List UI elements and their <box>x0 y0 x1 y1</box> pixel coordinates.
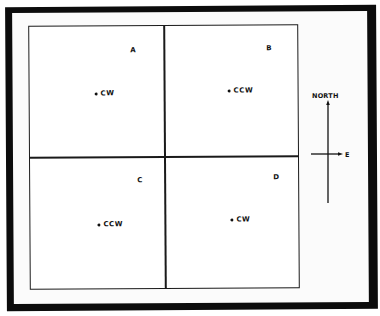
quadrant-grid: A CW B CCW C CCW D CW <box>28 24 300 290</box>
quadrant-a-point: CW <box>95 89 115 97</box>
quadrant-d-point: CW <box>230 215 250 223</box>
quadrant-a-rotation: CW <box>101 89 115 97</box>
quadrant-b-point: CCW <box>228 86 254 94</box>
quadrant-d-label: D <box>273 173 279 181</box>
quadrant-a-label: A <box>130 46 136 54</box>
compass: NORTH E <box>300 90 360 210</box>
compass-east-label: E <box>345 151 349 159</box>
point-dot-icon <box>228 89 231 92</box>
point-dot-icon <box>97 223 100 226</box>
quadrant-b-rotation: CCW <box>234 86 254 94</box>
compass-arrows-icon <box>300 90 360 210</box>
quadrant-c-rotation: CCW <box>103 220 123 228</box>
quadrant-c-point: CCW <box>97 220 123 228</box>
point-dot-icon <box>95 92 98 95</box>
point-dot-icon <box>230 218 233 221</box>
quadrant-b-label: B <box>266 44 272 52</box>
quadrant-d-rotation: CW <box>236 215 250 223</box>
quadrant-c-label: C <box>137 176 142 184</box>
